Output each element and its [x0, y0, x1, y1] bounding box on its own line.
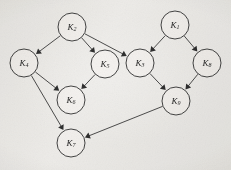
graph-edge: [81, 75, 95, 90]
edge-arrowhead: [36, 48, 42, 54]
edge-arrowhead: [192, 46, 198, 52]
graph-edge: [184, 36, 197, 51]
graph-node-k6[interactable]: K6: [57, 86, 85, 114]
graph-figure: K2K1K4K5K3K8K6K9K7: [0, 0, 231, 170]
graph-node-k8[interactable]: K8: [193, 49, 221, 77]
graph-node-k7[interactable]: K7: [57, 129, 85, 157]
graph-edge: [150, 74, 166, 91]
graph-node-k1[interactable]: K1: [161, 11, 189, 39]
graph-node-k5[interactable]: K5: [91, 50, 119, 78]
edge-arrowhead: [53, 85, 59, 91]
edge-arrowhead: [185, 83, 191, 89]
graph-node-k4[interactable]: K4: [10, 49, 38, 77]
graph-node-k3[interactable]: K3: [126, 49, 154, 77]
graph-edge: [82, 38, 95, 53]
graph-edge: [85, 106, 163, 138]
graph-canvas: K2K1K4K5K3K8K6K9K7: [0, 0, 231, 170]
graph-edge: [150, 36, 165, 52]
graph-edge: [36, 36, 60, 54]
graph-edge: [185, 74, 197, 89]
edges-layer: [31, 34, 197, 139]
graph-node-k9[interactable]: K9: [162, 87, 190, 115]
graph-node-k2[interactable]: K2: [58, 13, 86, 41]
